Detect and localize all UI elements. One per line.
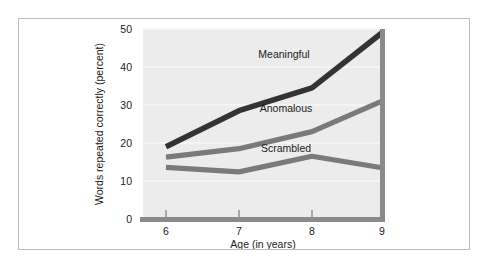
x-tick-label-9: 9 — [379, 225, 385, 237]
line-chart: 50 40 30 20 10 0 Words repeated correctl… — [19, 19, 469, 249]
x-tick-label-8: 8 — [309, 225, 315, 237]
y-tick-label-10: 10 — [120, 175, 132, 187]
series-label-anomalous: Anomalous — [260, 102, 313, 114]
y-tick-label-20: 20 — [120, 137, 132, 149]
figure-frame: 50 40 30 20 10 0 Words repeated correctl… — [18, 18, 470, 250]
y-axis-title: Words repeated correctly (percent) — [93, 43, 105, 205]
y-tick-label-40: 40 — [120, 61, 132, 73]
y-tick-label-30: 30 — [120, 99, 132, 111]
y-axis-tick-labels: 50 40 30 20 10 0 — [120, 23, 132, 225]
figure-root: 50 40 30 20 10 0 Words repeated correctl… — [0, 0, 496, 276]
x-tick-label-6: 6 — [163, 225, 169, 237]
y-tick-label-0: 0 — [126, 213, 132, 225]
x-axis-title: Age (in years) — [230, 238, 295, 249]
y-tick-label-50: 50 — [120, 23, 132, 35]
series-label-scrambled: Scrambled — [261, 142, 311, 154]
series-label-meaningful: Meaningful — [258, 48, 309, 60]
x-axis-tick-labels: 6 7 8 9 — [163, 225, 385, 237]
x-tick-label-7: 7 — [236, 225, 242, 237]
